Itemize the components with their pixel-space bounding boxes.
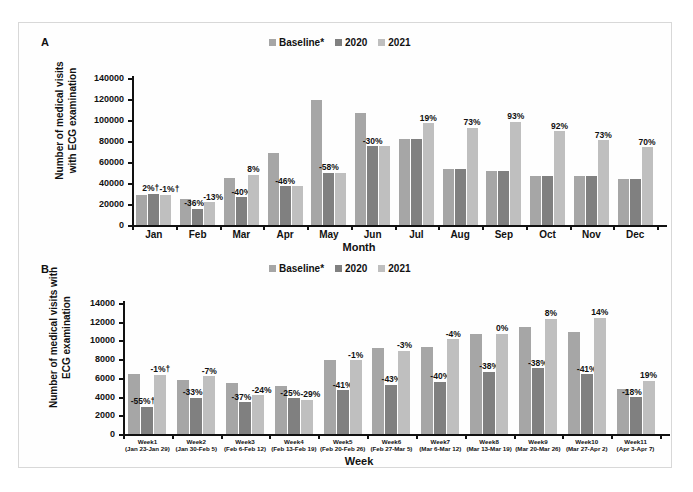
bar[interactable]: [498, 171, 509, 225]
bar[interactable]: [519, 327, 531, 434]
bar[interactable]: -1%†: [154, 375, 166, 434]
y-axis-tick-label: 20000: [99, 199, 124, 209]
bar-value-label: -7%: [202, 367, 217, 376]
bar-group: -40%8%: [220, 78, 264, 225]
bar[interactable]: 73%: [467, 128, 478, 225]
bar[interactable]: -33%: [190, 398, 202, 434]
legend-item-label: Baseline*: [279, 263, 324, 274]
bar[interactable]: [355, 113, 366, 225]
bar-value-label: 73%: [595, 131, 612, 140]
x-axis-category-label: Feb: [176, 229, 220, 241]
bar[interactable]: [586, 176, 597, 225]
bar-value-label: -30%: [363, 137, 383, 146]
bar-value-label: 19%: [640, 371, 657, 380]
x-axis-category-label: Oct: [526, 229, 570, 241]
bar[interactable]: -13%: [204, 202, 215, 225]
bar[interactable]: -58%: [323, 173, 334, 226]
bar[interactable]: -40%: [434, 382, 446, 434]
bar[interactable]: -4%: [447, 339, 459, 434]
bar[interactable]: [411, 139, 422, 225]
bar[interactable]: [268, 153, 279, 225]
bar[interactable]: 8%: [248, 175, 259, 225]
bar-value-label: -18%: [622, 388, 642, 397]
bar[interactable]: [568, 332, 580, 434]
bar-group: -38%0%: [465, 303, 514, 434]
bar[interactable]: -55%†: [141, 407, 153, 434]
bar[interactable]: [618, 179, 629, 225]
bar[interactable]: -1%†: [160, 195, 171, 225]
bar[interactable]: -41%: [337, 390, 349, 434]
figure-container: A Baseline*20202021 Number of medical vi…: [18, 22, 672, 468]
bar[interactable]: 92%: [554, 131, 565, 225]
bar[interactable]: [399, 139, 410, 225]
bar[interactable]: 0%: [496, 334, 508, 434]
bar[interactable]: -18%: [630, 397, 642, 434]
bar[interactable]: [486, 171, 497, 225]
bar[interactable]: 8%: [545, 319, 557, 434]
bar[interactable]: -38%: [532, 368, 544, 434]
bar[interactable]: 19%: [423, 123, 434, 225]
bar[interactable]: [542, 176, 553, 225]
category-week-label: Week9: [514, 438, 563, 445]
bar[interactable]: -36%: [192, 209, 203, 225]
y-axis-tick: [128, 120, 133, 122]
bar[interactable]: -7%: [203, 376, 215, 434]
bar[interactable]: -46%: [280, 186, 291, 225]
bar[interactable]: 73%: [598, 140, 609, 225]
bar[interactable]: -30%: [367, 146, 378, 225]
bar[interactable]: -43%: [385, 385, 397, 434]
bar[interactable]: -3%: [398, 351, 410, 434]
x-axis-category-label: May: [307, 229, 351, 241]
bar[interactable]: -25%: [288, 398, 300, 434]
bar[interactable]: [372, 348, 384, 434]
bar[interactable]: [421, 347, 433, 434]
bar[interactable]: [335, 173, 346, 226]
bar[interactable]: 70%: [642, 147, 653, 225]
bar-value-label: -36%: [184, 199, 204, 208]
bar[interactable]: -37%: [239, 402, 251, 434]
legend-item-a-0[interactable]: Baseline*: [269, 37, 324, 48]
bar[interactable]: -24%: [252, 395, 264, 434]
category-week-label: Week5: [318, 438, 367, 445]
bar[interactable]: [136, 195, 147, 225]
bar-group: -41%-1%: [318, 303, 367, 434]
bar[interactable]: 14%: [594, 318, 606, 434]
bar[interactable]: -38%: [483, 372, 495, 434]
bar-value-label: -1%†: [150, 365, 170, 374]
bar[interactable]: 2%†: [148, 194, 159, 226]
legend-item-a-1[interactable]: 2020: [335, 37, 367, 48]
legend-item-b-1[interactable]: 2020: [335, 263, 367, 274]
bar[interactable]: [455, 169, 466, 225]
legend-item-label: 2021: [388, 37, 410, 48]
y-axis-tick: [128, 99, 133, 101]
bar-group: 93%: [482, 78, 526, 225]
bar[interactable]: [530, 176, 541, 225]
legend-swatch-icon: [335, 39, 342, 46]
bar[interactable]: -40%: [236, 197, 247, 225]
bar[interactable]: [324, 360, 336, 434]
x-axis-category-label: Apr: [263, 229, 307, 241]
legend-item-a-2[interactable]: 2021: [378, 37, 410, 48]
bar[interactable]: -1%: [350, 360, 362, 434]
bar[interactable]: [292, 186, 303, 225]
bar[interactable]: [574, 176, 585, 225]
bar-group: -30%: [351, 78, 395, 225]
bar[interactable]: 93%: [510, 122, 521, 225]
legend-item-b-2[interactable]: 2021: [378, 263, 410, 274]
bar[interactable]: [379, 146, 390, 225]
bar-value-label: -4%: [446, 330, 461, 339]
x-axis-category-label: Week4(Feb 13-Feb 19): [269, 438, 318, 452]
bar[interactable]: 19%: [643, 381, 655, 434]
legend-item-b-0[interactable]: Baseline*: [269, 263, 324, 274]
x-axis-category-label: Dec: [613, 229, 657, 241]
bar[interactable]: [470, 334, 482, 434]
panel-a-x-axis: [132, 225, 667, 227]
y-axis-tick: [119, 359, 124, 361]
bar[interactable]: [443, 169, 454, 225]
category-date-range-label: (Mar 27-Apr 2): [562, 445, 611, 452]
bar-value-label: -1%: [348, 351, 363, 360]
bar[interactable]: [630, 179, 641, 225]
bar[interactable]: -29%: [301, 400, 313, 434]
bar[interactable]: [224, 178, 235, 225]
bar[interactable]: -41%: [581, 374, 593, 434]
